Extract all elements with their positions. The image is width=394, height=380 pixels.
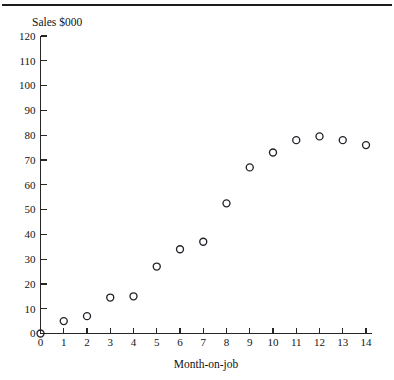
y-tick-label: 90 <box>25 104 37 116</box>
y-tick-label: 50 <box>25 203 37 215</box>
data-point-marker <box>84 313 91 320</box>
x-tick-label: 7 <box>201 336 207 348</box>
y-tick-label: 110 <box>19 55 36 67</box>
figure-page: Sales $000 0102030405060708090100110120 … <box>0 0 394 380</box>
data-point-marker <box>293 137 300 144</box>
x-tick-label: 9 <box>247 336 253 348</box>
y-tick-label: 120 <box>19 30 36 42</box>
x-tick-label: 0 <box>38 336 44 348</box>
y-tick-label: 100 <box>19 79 36 91</box>
x-tick-label: 8 <box>224 336 230 348</box>
y-tick-label: 10 <box>25 303 37 315</box>
y-tick-label: 30 <box>25 253 37 265</box>
data-point-marker <box>339 137 346 144</box>
y-tick-label: 0 <box>30 327 36 339</box>
x-tick-label: 10 <box>268 336 280 348</box>
x-axis-title: Month-on-job <box>174 358 239 371</box>
x-tick-label: 13 <box>337 336 349 348</box>
data-point-marker <box>270 149 277 156</box>
x-axis-ticks: 01234567891011121314 <box>38 328 372 349</box>
x-tick-label: 2 <box>84 336 90 348</box>
data-point-group <box>37 133 370 337</box>
data-point-marker <box>60 318 67 325</box>
y-tick-label: 80 <box>25 129 37 141</box>
x-tick-label: 6 <box>177 336 183 348</box>
x-tick-label: 14 <box>361 336 373 348</box>
data-point-marker <box>200 238 207 245</box>
y-tick-label: 40 <box>25 228 37 240</box>
x-tick-label: 1 <box>61 336 67 348</box>
data-point-marker <box>177 246 184 253</box>
scatter-chart: Sales $000 0102030405060708090100110120 … <box>0 0 394 380</box>
data-point-marker <box>107 294 114 301</box>
data-point-marker <box>223 200 230 207</box>
y-tick-label: 20 <box>25 278 37 290</box>
x-tick-label: 12 <box>314 336 325 348</box>
data-point-marker <box>153 263 160 270</box>
data-point-marker <box>130 293 137 300</box>
x-tick-label: 5 <box>154 336 160 348</box>
x-tick-label: 4 <box>131 336 137 348</box>
x-tick-label: 11 <box>291 336 302 348</box>
data-point-marker <box>363 142 370 149</box>
data-point-marker <box>246 164 253 171</box>
y-axis-title: Sales $000 <box>32 16 82 28</box>
data-point-marker <box>316 133 323 140</box>
y-tick-label: 60 <box>25 179 37 191</box>
y-tick-label: 70 <box>25 154 37 166</box>
x-tick-label: 3 <box>108 336 114 348</box>
y-axis-ticks: 0102030405060708090100110120 <box>19 30 47 340</box>
